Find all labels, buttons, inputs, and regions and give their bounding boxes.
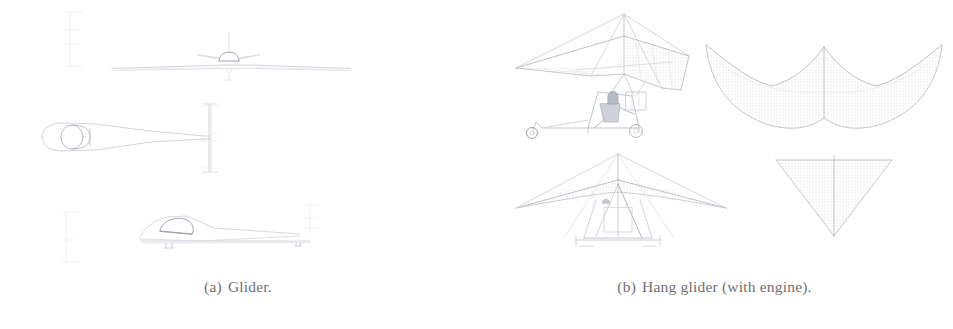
hang-glider-sail-profile-view <box>776 156 892 236</box>
dimension-marks-front <box>66 12 84 66</box>
dimension-marks-side <box>305 205 318 234</box>
glider-front-view <box>112 32 350 80</box>
glider-views-svg <box>0 0 476 270</box>
figure-panel-b: (b)Hang glider (with engine). <box>476 0 953 329</box>
figure-panel-a: (a)Glider. <box>0 0 476 329</box>
hang-glider-rear-sail-view <box>706 45 942 128</box>
caption-label-b: (b) <box>617 278 636 295</box>
dimension-marks-top <box>200 106 220 168</box>
caption-text-a: Glider. <box>228 278 272 295</box>
caption-panel-b: (b)Hang glider (with engine). <box>476 278 953 296</box>
hang-glider-drawing-group <box>476 0 953 270</box>
glider-side-view <box>62 205 318 262</box>
hang-glider-perspective-view <box>516 14 689 139</box>
glider-drawing-group <box>0 0 476 270</box>
glider-top-view <box>42 104 220 172</box>
hang-glider-views-svg <box>476 0 953 270</box>
caption-panel-a: (a)Glider. <box>0 278 476 296</box>
hang-glider-front-view <box>516 154 726 246</box>
caption-label-a: (a) <box>204 278 222 295</box>
figure-root: (a)Glider. <box>0 0 953 329</box>
caption-text-b: Hang glider (with engine). <box>642 278 812 295</box>
